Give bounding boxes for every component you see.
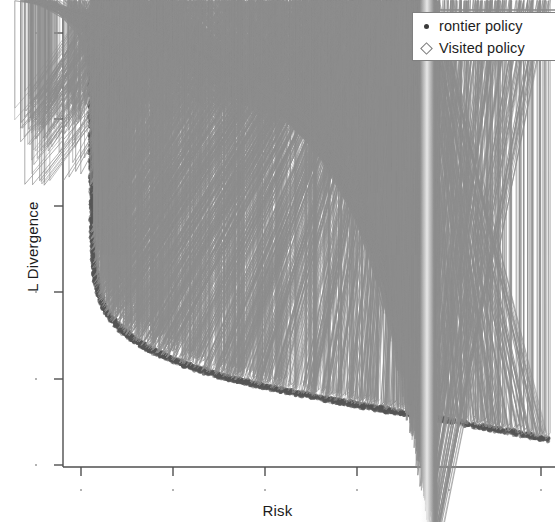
frontier-point [354,405,357,408]
frontier-point [497,430,500,433]
frontier-point [240,381,243,384]
x-tick-label-5 [540,489,542,491]
frontier-point [393,411,398,416]
frontier-point [388,410,391,413]
y-tick-label-5 [35,464,37,466]
x-tick-label-1 [172,489,174,491]
x-tick-label-0 [80,489,82,491]
scatter-plot-figure: L Divergence Risk rontier policy Visited… [0,0,555,522]
series-visited-policy [15,0,551,522]
frontier-point [286,392,289,395]
frontier-point [217,374,220,377]
frontier-point [90,254,94,258]
open-diamond-icon [413,44,439,53]
frontier-point [221,377,224,380]
frontier-point [471,424,474,427]
x-tick-label-3 [356,489,358,491]
y-axis-title: L Divergence [24,167,41,327]
plot-canvas [0,0,555,522]
legend: rontier policy Visited policy [412,12,555,61]
x-axis-title: Risk [0,502,555,519]
frontier-point [144,348,148,352]
legend-item-visited-policy: Visited policy [413,36,555,60]
x-tick-label-2 [264,489,266,491]
legend-label-frontier-policy: rontier policy [439,18,523,34]
frontier-point [261,386,266,391]
frontier-point [323,399,327,403]
frontier-point [541,437,545,441]
legend-label-visited-policy: Visited policy [439,40,525,56]
legend-item-frontier-policy: rontier policy [413,14,555,38]
filled-circle-icon [413,24,439,29]
y-tick-label-4 [35,378,37,380]
frontier-point [115,322,118,325]
frontier-point [536,438,539,441]
frontier-point [363,406,366,409]
frontier-point [376,407,379,410]
frontier-point [316,395,319,398]
frontier-point [246,379,250,383]
frontier-point [181,364,185,368]
frontier-point [399,413,402,416]
data-points-layer [15,0,551,522]
frontier-point [379,408,383,412]
